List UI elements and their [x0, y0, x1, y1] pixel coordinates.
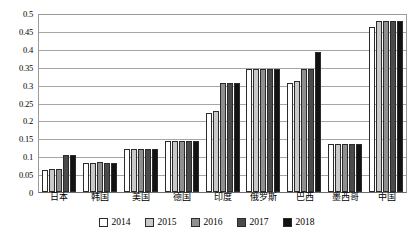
y-tick-label: 0.5: [23, 10, 33, 19]
bar[interactable]: [234, 83, 240, 192]
legend-item[interactable]: 2015: [145, 218, 177, 228]
bar-group: [243, 14, 284, 192]
bar-chart: 00.050.10.150.20.250.30.350.40.450.5 日本韩…: [0, 0, 413, 246]
plot-area: [38, 14, 407, 193]
x-category-label: 美国: [120, 193, 161, 203]
bar[interactable]: [328, 144, 334, 192]
bar[interactable]: [301, 69, 307, 193]
legend-swatch-icon: [191, 218, 200, 227]
bar[interactable]: [186, 141, 192, 192]
bar[interactable]: [124, 149, 130, 192]
bar[interactable]: [56, 169, 62, 192]
bar[interactable]: [145, 149, 151, 192]
y-tick-label: 0.3: [23, 81, 33, 90]
bar[interactable]: [90, 163, 96, 192]
bar[interactable]: [349, 144, 355, 192]
y-tick-label: 0.05: [19, 171, 33, 180]
bar[interactable]: [335, 144, 341, 192]
bar-groups: [39, 14, 406, 192]
legend-swatch-icon: [145, 218, 154, 227]
y-tick-label: 0: [29, 189, 33, 198]
bar-group: [39, 14, 80, 192]
bar[interactable]: [213, 111, 219, 192]
bar[interactable]: [165, 141, 171, 192]
bar[interactable]: [138, 149, 144, 192]
bar[interactable]: [111, 163, 117, 192]
bar[interactable]: [376, 21, 382, 192]
chart-legend: 20142015201620172018: [0, 218, 413, 228]
x-category-label: 俄罗斯: [243, 193, 284, 203]
legend-item[interactable]: 2018: [283, 218, 315, 228]
x-category-label: 日本: [38, 193, 79, 203]
bar[interactable]: [131, 149, 137, 192]
legend-swatch-icon: [99, 218, 108, 227]
x-axis-category-labels: 日本韩国美国德国印度俄罗斯巴西墨西哥中国: [38, 193, 407, 211]
bar[interactable]: [104, 163, 110, 192]
bar[interactable]: [97, 162, 103, 192]
bar[interactable]: [342, 144, 348, 192]
bar[interactable]: [172, 141, 178, 192]
x-category-label: 中国: [366, 193, 407, 203]
bar[interactable]: [63, 155, 69, 192]
x-category-label: 印度: [202, 193, 243, 203]
y-tick-label: 0.2: [23, 117, 33, 126]
bar[interactable]: [206, 113, 212, 192]
y-tick-label: 0.35: [19, 63, 33, 72]
bar-group: [324, 14, 365, 192]
x-category-label: 德国: [161, 193, 202, 203]
bar[interactable]: [253, 69, 259, 193]
bar[interactable]: [390, 21, 396, 192]
x-category-label: 巴西: [284, 193, 325, 203]
bar-group: [121, 14, 162, 192]
legend-label: 2016: [204, 218, 223, 228]
bar[interactable]: [274, 69, 280, 193]
bar[interactable]: [287, 83, 293, 192]
bar[interactable]: [294, 81, 300, 192]
bar-group: [365, 14, 406, 192]
bar[interactable]: [227, 83, 233, 192]
y-tick-label: 0.4: [23, 46, 33, 55]
bar[interactable]: [397, 21, 403, 192]
y-tick-label: 0.45: [19, 28, 33, 37]
bar-group: [202, 14, 243, 192]
y-axis-tick-labels: 00.050.10.150.20.250.30.350.40.450.5: [0, 0, 36, 212]
legend-label: 2015: [158, 218, 177, 228]
bar[interactable]: [70, 155, 76, 192]
bar[interactable]: [179, 141, 185, 192]
y-tick-label: 0.25: [19, 99, 33, 108]
bar[interactable]: [49, 169, 55, 192]
bar[interactable]: [193, 141, 199, 192]
bar[interactable]: [383, 21, 389, 192]
legend-item[interactable]: 2017: [237, 218, 269, 228]
bar-group: [161, 14, 202, 192]
x-category-label: 韩国: [79, 193, 120, 203]
legend-item[interactable]: 2014: [99, 218, 131, 228]
bar[interactable]: [267, 69, 273, 193]
legend-swatch-icon: [283, 218, 292, 227]
legend-swatch-icon: [237, 218, 246, 227]
bar-group: [80, 14, 121, 192]
bar[interactable]: [152, 149, 158, 192]
bar[interactable]: [356, 144, 362, 192]
bar[interactable]: [308, 69, 314, 193]
bar[interactable]: [246, 69, 252, 193]
legend-label: 2017: [250, 218, 269, 228]
bar[interactable]: [260, 69, 266, 193]
bar[interactable]: [220, 83, 226, 192]
bar[interactable]: [369, 27, 375, 192]
x-category-label: 墨西哥: [325, 193, 366, 203]
legend-label: 2014: [112, 218, 131, 228]
bar-group: [284, 14, 325, 192]
plot-wrapper: 00.050.10.150.20.250.30.350.40.450.5 日本韩…: [0, 0, 413, 212]
bar[interactable]: [83, 163, 89, 192]
y-tick-label: 0.1: [23, 153, 33, 162]
legend-item[interactable]: 2016: [191, 218, 223, 228]
y-tick-label: 0.15: [19, 135, 33, 144]
bar[interactable]: [315, 52, 321, 192]
bar[interactable]: [42, 170, 48, 192]
legend-label: 2018: [296, 218, 315, 228]
